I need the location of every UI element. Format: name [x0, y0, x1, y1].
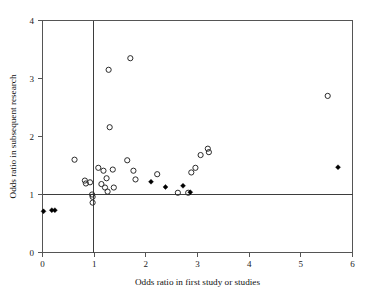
scatter-plot-figure: 0 1 2 3 4 0 1 2 3 4 5 6 Odds ratio in fi…: [0, 0, 365, 298]
data-point-open-circle: [206, 150, 211, 155]
data-point-open-circle: [96, 165, 101, 170]
x-ticklabel-2: 2: [144, 259, 149, 269]
data-point-open-circle: [106, 67, 111, 72]
x-ticklabel-1: 1: [92, 259, 97, 269]
y-ticklabel-2: 2: [30, 132, 35, 142]
y-ticklabel-0: 0: [30, 248, 35, 258]
data-point-open-circle: [155, 172, 160, 177]
x-axis-ticks: [43, 253, 353, 258]
data-point-open-circle: [110, 167, 115, 172]
data-point-open-circle: [104, 176, 109, 181]
y-axis-tick-labels: 0 1 2 3 4: [30, 16, 35, 258]
data-point-open-circle: [189, 170, 194, 175]
data-point-filled-diamond: [41, 209, 46, 214]
data-point-filled-diamond: [52, 208, 57, 213]
y-ticklabel-3: 3: [30, 74, 35, 84]
x-ticklabel-3: 3: [195, 259, 200, 269]
data-point-open-circle: [111, 185, 116, 190]
plot-frame: [43, 21, 353, 253]
reference-lines: [43, 21, 353, 253]
data-point-open-circle: [198, 152, 203, 157]
plot-canvas: 0 1 2 3 4 0 1 2 3 4 5 6 Odds ratio in fi…: [0, 0, 365, 298]
data-point-filled-diamond: [336, 165, 341, 170]
data-series-filled-diamonds: [41, 165, 341, 214]
x-axis-tick-labels: 0 1 2 3 4 5 6: [40, 259, 355, 269]
data-series-open-circles: [72, 56, 330, 206]
x-ticklabel-6: 6: [350, 259, 355, 269]
data-point-open-circle: [101, 168, 106, 173]
x-axis-title: Odds ratio in first study or studies: [135, 277, 260, 287]
data-point-filled-diamond: [149, 179, 154, 184]
data-point-filled-diamond: [181, 183, 186, 188]
y-ticklabel-4: 4: [30, 16, 35, 26]
x-ticklabel-5: 5: [299, 259, 304, 269]
data-point-open-circle: [125, 158, 130, 163]
data-point-open-circle: [128, 56, 133, 61]
data-point-filled-diamond: [163, 184, 168, 189]
data-point-open-circle: [205, 146, 210, 151]
y-ticklabel-1: 1: [30, 190, 35, 200]
data-point-open-circle: [72, 157, 77, 162]
y-axis-ticks: [38, 21, 43, 253]
data-point-open-circle: [105, 189, 110, 194]
x-ticklabel-4: 4: [247, 259, 252, 269]
data-point-open-circle: [107, 125, 112, 130]
data-point-open-circle: [131, 168, 136, 173]
data-point-open-circle: [90, 200, 95, 205]
data-point-open-circle: [193, 165, 198, 170]
data-point-open-circle: [325, 93, 330, 98]
x-ticklabel-0: 0: [40, 259, 45, 269]
data-point-open-circle: [133, 177, 138, 182]
y-axis-title: Odds ratio in subsequent research: [8, 74, 18, 198]
